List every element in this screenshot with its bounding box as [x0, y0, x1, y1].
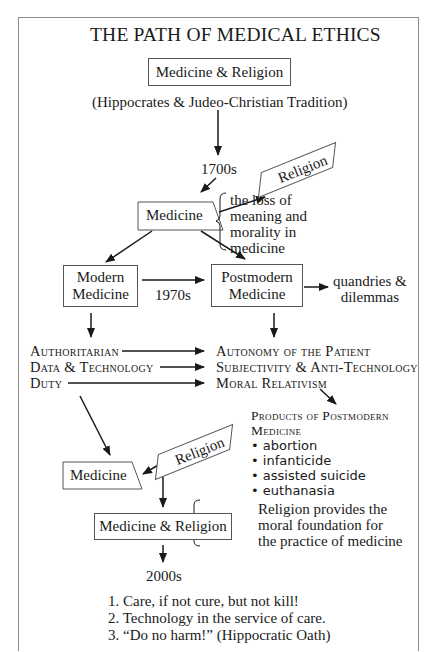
era-1700s: 1700s [201, 162, 237, 177]
foundation-line: Religion provides the [258, 501, 403, 517]
products-heading-line: Medicine [251, 423, 389, 438]
product-item: • euthanasia [251, 483, 366, 498]
quandries-note: quandries & dilemmas [333, 273, 407, 305]
principle-item: 1. Care, if not cure, but not kill! [108, 593, 330, 610]
product-item: • assisted suicide [251, 468, 366, 483]
tradition-label: (Hippocrates & Judeo-Christian Tradition… [92, 95, 347, 110]
bottom-box-label: Medicine & Religion [99, 518, 226, 535]
trait-autonomy: Autonomy of the Patient [216, 344, 370, 359]
product-label: assisted suicide [263, 468, 366, 483]
products-heading: Products of Postmodern Medicine [251, 408, 389, 438]
trait-subjectivity: Subjectivity & Anti-Technology [216, 360, 418, 375]
principle-item: 2. Technology in the service of care. [108, 610, 330, 627]
loss-note-line: meaning and [230, 208, 307, 224]
products-heading-line: Products of Postmodern [251, 408, 389, 423]
loss-note: the loss of meaning and morality in medi… [230, 192, 307, 256]
product-label: abortion [263, 438, 317, 453]
era-1970s: 1970s [155, 288, 191, 303]
postmodern-line: Postmodern [221, 269, 293, 286]
top-box-label: Medicine & Religion [156, 64, 283, 81]
trait-relativism: Moral Relativism [216, 376, 327, 391]
modern-line: Modern [72, 269, 129, 286]
product-label: euthanasia [263, 483, 335, 498]
postmodern-line: Medicine [221, 286, 293, 303]
loss-note-line: the loss of [230, 192, 307, 208]
product-item: • abortion [251, 438, 366, 453]
bottom-medicine-religion-box: Medicine & Religion [94, 513, 232, 540]
arrow-1700s-to-medicine [201, 178, 216, 192]
modern-line: Medicine [72, 286, 129, 303]
principle-item: 3. “Do no harm!” (Hippocratic Oath) [108, 627, 330, 644]
trait-duty: Duty [30, 376, 62, 391]
arrow-medicine-to-modern [106, 231, 152, 262]
arrow-duty-to-medicine [80, 396, 110, 455]
quandries-line: quandries & [333, 273, 407, 289]
products-list: • abortion • infanticide • assisted suic… [251, 438, 366, 498]
medicine-lower-label: Medicine [70, 468, 127, 483]
trait-authoritarian: Authoritarian [30, 344, 119, 359]
foundation-line: moral foundation for [258, 517, 403, 533]
principles-list: 1. Care, if not cure, but not kill! 2. T… [108, 593, 330, 644]
loss-note-line: morality in [230, 224, 307, 240]
era-2000s: 2000s [146, 569, 182, 584]
loss-note-line: medicine [230, 240, 307, 256]
top-medicine-religion-box: Medicine & Religion [148, 58, 291, 86]
foundation-note: Religion provides the moral foundation f… [258, 501, 403, 549]
product-label: infanticide [263, 453, 331, 468]
postmodern-medicine-box: PostmodernMedicine [211, 264, 303, 307]
page-title: THE PATH OF MEDICAL ETHICS [90, 25, 381, 45]
quandries-line: dilemmas [333, 289, 407, 305]
medicine-upper-label: Medicine [146, 208, 203, 223]
product-item: • infanticide [251, 453, 366, 468]
arrow-relativism-to-products [320, 389, 336, 404]
modern-medicine-box: ModernMedicine [63, 265, 138, 307]
foundation-line: the practice of medicine [258, 533, 403, 549]
trait-data-technology: Data & Technology [30, 360, 154, 375]
